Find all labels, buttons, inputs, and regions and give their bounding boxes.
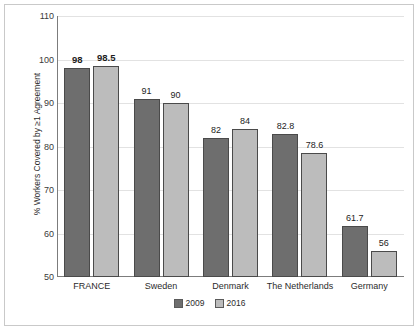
bar-group: 9190: [126, 16, 195, 277]
bar-rect[interactable]: [203, 138, 229, 277]
bar-2009[interactable]: 82: [203, 16, 229, 277]
bar-2009[interactable]: 61.7: [342, 16, 368, 277]
bar-rect[interactable]: [64, 68, 90, 277]
bar-rect[interactable]: [93, 66, 119, 277]
bar-group: 9898.5: [57, 16, 126, 277]
bar-2009[interactable]: 98: [64, 16, 90, 277]
legend-item-2016[interactable]: 2016: [215, 299, 246, 308]
y-axis-title-holder: % Workers Covered by ≥1 Agreement: [24, 16, 38, 277]
bar-groups: 9898.59190828482.878.661.756: [57, 16, 404, 277]
bar-2016[interactable]: 90: [163, 16, 189, 277]
bar-2016[interactable]: 98.5: [93, 16, 119, 277]
chart-legend: 20092016: [0, 299, 419, 308]
bar-value-label: 56: [379, 238, 389, 248]
bar-2009[interactable]: 91: [134, 16, 160, 277]
bar-value-label: 82: [211, 125, 221, 135]
y-axis-title: % Workers Covered by ≥1 Agreement: [32, 39, 42, 249]
legend-label: 2009: [186, 299, 205, 308]
bar-group: 82.878.6: [265, 16, 334, 277]
bar-value-label: 78.6: [306, 140, 324, 150]
bar-value-label: 84: [240, 116, 250, 126]
bar-chart-figure: 5060708090100110 % Workers Covered by ≥1…: [0, 0, 419, 332]
bar-value-label: 61.7: [346, 213, 364, 223]
x-axis-category-label: FRANCE: [57, 281, 126, 291]
bar-rect[interactable]: [232, 129, 258, 277]
x-axis-category-label: Sweden: [126, 281, 195, 291]
legend-item-2009[interactable]: 2009: [174, 299, 205, 308]
bar-2016[interactable]: 78.6: [301, 16, 327, 277]
bar-value-label: 82.8: [277, 121, 295, 131]
x-axis-category-label: The Netherlands: [265, 281, 334, 291]
bar-2009[interactable]: 82.8: [272, 16, 298, 277]
x-axis-labels: FRANCESwedenDenmarkThe NetherlandsGerman…: [57, 281, 404, 291]
legend-swatch-icon: [174, 299, 183, 308]
legend-label: 2016: [227, 299, 246, 308]
bar-rect[interactable]: [272, 134, 298, 277]
bar-value-label: 90: [171, 90, 181, 100]
bar-rect[interactable]: [134, 99, 160, 277]
bar-rect[interactable]: [371, 251, 397, 277]
x-axis-category-label: Denmark: [196, 281, 265, 291]
bar-value-label: 98.5: [97, 53, 116, 63]
legend-swatch-icon: [215, 299, 224, 308]
bar-rect[interactable]: [163, 103, 189, 277]
x-axis-category-label: Germany: [335, 281, 404, 291]
bar-rect[interactable]: [342, 226, 368, 277]
bar-value-label: 98: [72, 55, 83, 65]
bar-2016[interactable]: 84: [232, 16, 258, 277]
bar-group: 8284: [196, 16, 265, 277]
bar-value-label: 91: [142, 86, 152, 96]
bar-rect[interactable]: [301, 153, 327, 277]
bar-group: 61.756: [335, 16, 404, 277]
bar-2016[interactable]: 56: [371, 16, 397, 277]
